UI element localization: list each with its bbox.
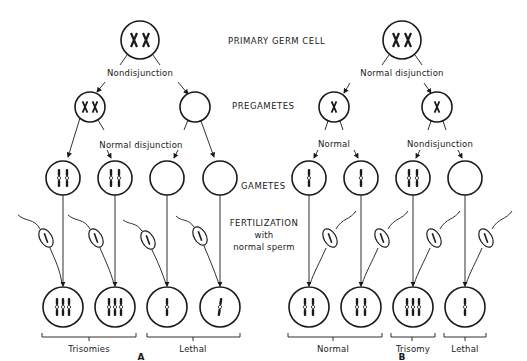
meiosis-nondisjunction-diagram: PRIMARY GERM CELL PREGAMETES GAMETES FER…: [0, 0, 527, 361]
outcome-lethal-b: Lethal: [451, 345, 478, 354]
gamete-a-4: [203, 161, 237, 195]
label-gametes: GAMETES: [241, 182, 286, 191]
label-a-nondisjunction: Nondisjunction: [107, 69, 173, 78]
bracket-trisomies: [42, 333, 136, 341]
outcome-trisomies: Trisomies: [68, 345, 110, 354]
pregamete-a-1: [75, 92, 105, 122]
zygote-b-2: [341, 287, 381, 327]
label-b-normal-disjunction: Normal disjunction: [360, 69, 443, 78]
label-fertilization: FERTILIZATION: [230, 219, 299, 228]
panel-label-a: A: [137, 353, 144, 361]
bracket-lethal-b: [444, 333, 486, 341]
outcome-lethal-a: Lethal: [179, 345, 206, 354]
primary-cell-a: [121, 21, 159, 59]
bracket-normal: [288, 333, 382, 341]
bracket-lethal-a: [147, 333, 240, 341]
zygote-b-1: [289, 287, 329, 327]
gamete-b-4: [448, 161, 482, 195]
sperm-b: [310, 211, 512, 284]
label-a-normal-disjunction: Normal disjunction: [99, 141, 182, 150]
gamete-a-3: [150, 161, 184, 195]
label-b-normal: Normal: [318, 140, 350, 149]
outcome-normal: Normal: [317, 345, 349, 354]
label-normal-sperm: normal sperm: [233, 243, 295, 252]
gamete-a-1: [46, 161, 80, 195]
bracket-trisomy: [391, 333, 435, 341]
label-fertilization-with: with: [255, 231, 274, 240]
pregamete-a-2: [180, 92, 210, 122]
label-pregametes: PREGAMETES: [232, 102, 294, 111]
label-b-nondisjunction: Nondisjunction: [407, 140, 473, 149]
gamete-a-2: [98, 161, 132, 195]
gamete-b-3: [396, 161, 430, 195]
panel-label-b: B: [398, 353, 405, 361]
primary-cell-b: [383, 21, 421, 59]
label-primary-germ-cell: PRIMARY GERM CELL: [228, 37, 325, 46]
sperm-a: [18, 215, 219, 284]
